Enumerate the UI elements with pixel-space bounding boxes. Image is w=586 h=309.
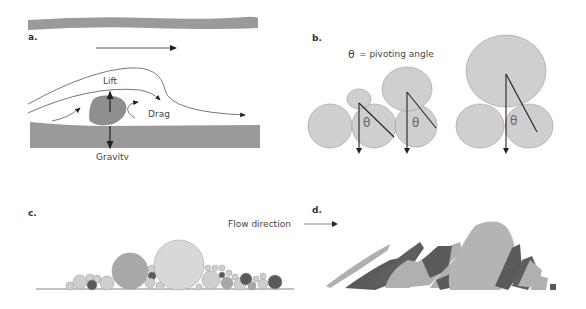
- bed: [30, 122, 260, 148]
- legend-text: = pivoting angle: [359, 49, 434, 59]
- flow-direction-label: Flow direction: [228, 219, 291, 229]
- panel-a: a. Lift Drag Gravity: [0, 0, 290, 160]
- theta-2: θ: [412, 116, 419, 130]
- theta-1: θ: [363, 116, 370, 130]
- theta-symbol: θ: [348, 48, 355, 61]
- drag-label: Drag: [148, 109, 170, 119]
- water-surface: [28, 17, 258, 30]
- gravity-label: Gravity: [96, 152, 130, 160]
- theta-3: θ: [510, 114, 517, 128]
- panel-d: d.: [290, 160, 586, 309]
- panel-b: b. θ = pivoting angle θ θ: [290, 0, 586, 160]
- panel-a-label: a.: [28, 32, 38, 42]
- panel-d-label: d.: [312, 205, 322, 215]
- panel-c-label: c.: [28, 208, 37, 218]
- panel-c: c.: [0, 160, 300, 309]
- panel-b-label: b.: [312, 33, 322, 43]
- lift-label: Lift: [103, 76, 118, 86]
- grain: [89, 96, 126, 125]
